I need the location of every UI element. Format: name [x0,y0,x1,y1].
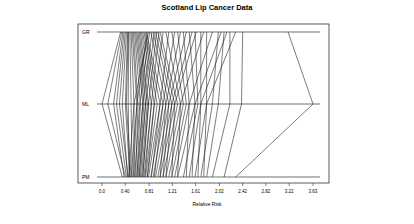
region-line [212,32,230,177]
region-line [204,32,236,177]
x-tick-label: 0.81 [145,189,154,194]
x-tick-label: 1.61 [191,189,200,194]
x-tick-label: 2.02 [215,189,224,194]
x-axis-label: Relative Risk [192,201,222,207]
region-line [183,32,198,177]
x-tick-label: 0.40 [121,189,130,194]
region-line [151,32,166,177]
chart-title: Scotland Lip Cancer Data [162,3,254,12]
x-tick-label: 3.22 [285,189,294,194]
region-line [236,32,313,177]
region-line [186,32,212,177]
region-line [178,32,204,177]
axis-label-gr: GR [82,29,90,35]
data-lines [102,32,313,177]
x-tick-label: 0.0 [99,189,106,194]
x-axis-ticks: 0.00.400.811.211.612.022.422.823.223.63 [99,183,318,194]
x-tick-label: 3.63 [309,189,318,194]
region-line [201,32,219,177]
x-tick-label: 2.42 [238,189,247,194]
x-tick-label: 1.21 [168,189,177,194]
axis-label-ml: ML [82,101,89,107]
x-tick-label: 2.82 [262,189,271,194]
region-line [207,32,225,177]
chart-area: Scotland Lip Cancer Data GRMLPM 0.00.400… [0,0,414,224]
axis-label-pm: PM [82,174,90,180]
axis-labels: GRMLPM [82,29,90,180]
